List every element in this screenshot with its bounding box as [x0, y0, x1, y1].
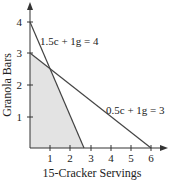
eq2-label: 0.5c + 1g = 3	[106, 104, 165, 116]
x-axis-title: 15-Cracker Servings	[43, 166, 142, 180]
y-tick-label: 2	[17, 79, 23, 91]
y-tick-label: 3	[17, 47, 23, 59]
x-tick-label: 1	[47, 152, 53, 164]
y-axis-arrow-icon	[27, 2, 33, 10]
x-tick-label: 2	[67, 152, 73, 164]
x-tick-label: 4	[108, 152, 114, 164]
eq1-label: 1.5c + 1g = 4	[40, 35, 99, 47]
chart: 1 2 3 4 5 6 1 2 3 4 1.5c + 1g = 4 0.5c +…	[0, 0, 171, 182]
x-tick-label: 3	[88, 152, 94, 164]
feasible-region	[30, 53, 84, 148]
x-tick-label: 5	[128, 152, 134, 164]
x-axis-arrow-icon	[160, 145, 168, 151]
y-tick-label: 4	[17, 16, 23, 28]
x-tick-label: 6	[148, 152, 154, 164]
y-tick-label: 1	[17, 111, 23, 123]
y-axis-title: Granola Bars	[0, 53, 14, 117]
